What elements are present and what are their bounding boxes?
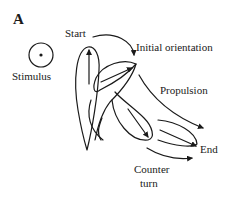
stimulus-icon — [29, 43, 53, 67]
diagram-figure: A Stimulus Start Initial orientation Pro… — [0, 0, 238, 200]
trajectory-drawing — [0, 0, 238, 200]
